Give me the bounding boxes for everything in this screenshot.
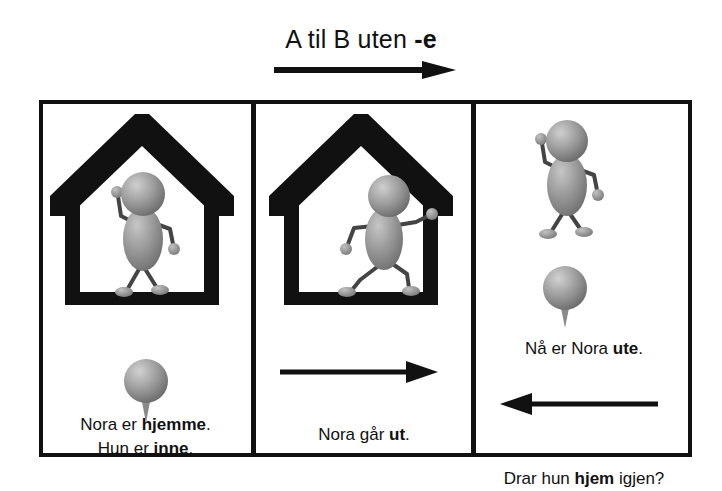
arrow-right-icon [274, 61, 456, 79]
caption-bold: hjem [575, 469, 615, 488]
panel-3-caption-line-1: Nå er Nora ute. [476, 336, 692, 361]
panel-3-caption-line-2: Drar hun hjem igjen? [476, 466, 692, 491]
caption-text: Nå er Nora [525, 339, 613, 358]
diagram-title: A til B uten -e [0, 24, 722, 54]
house-with-person-inside-icon [39, 104, 252, 309]
caption-bold: ut [389, 425, 405, 444]
caption-tail: . [405, 425, 410, 444]
caption-bold: inne [154, 439, 189, 458]
map-pin-icon [476, 262, 692, 334]
arrow-left-icon [498, 390, 660, 418]
panel-1-caption-line-2: Hun er inne. [39, 436, 252, 461]
caption-text: Nora går [318, 425, 389, 444]
arrow-right-icon [278, 358, 440, 386]
caption-bold: ute [613, 339, 639, 358]
person-standing-icon [476, 108, 692, 248]
caption-tail: . [638, 339, 643, 358]
title-text: A til B uten -e [285, 25, 437, 53]
caption-tail: igjen? [614, 469, 664, 488]
map-pin-icon [39, 355, 252, 427]
panel-2-caption-line-1: Nora går ut. [256, 422, 472, 447]
caption-text: Drar hun [504, 469, 575, 488]
title-prefix: A til B uten [285, 25, 414, 53]
caption-tail: . [188, 439, 193, 458]
house-with-person-exiting-icon [256, 104, 472, 309]
title-emphasis: -e [414, 25, 437, 53]
caption-text: Hun er [98, 439, 154, 458]
